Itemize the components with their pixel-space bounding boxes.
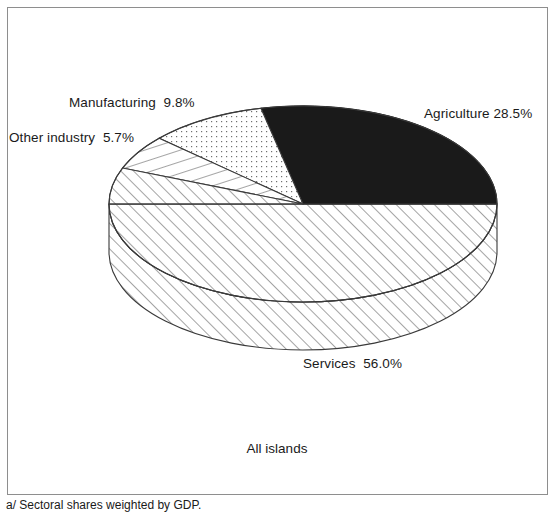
chart-title: All islands — [0, 441, 554, 456]
slice-label-other-industry: Other industry 5.7% — [9, 130, 134, 146]
slice-label-services: Services 56.0% — [303, 356, 402, 372]
pie-chart-svg — [0, 0, 554, 514]
figure-root: Manufacturing 9.8% Other industry 5.7% A… — [0, 0, 554, 514]
chart-footnote: a/ Sectoral shares weighted by GDP. — [6, 498, 201, 512]
slice-label-manufacturing: Manufacturing 9.8% — [69, 95, 195, 111]
pie-top-face — [109, 106, 497, 302]
slice-label-agriculture: Agriculture 28.5% — [424, 106, 532, 122]
